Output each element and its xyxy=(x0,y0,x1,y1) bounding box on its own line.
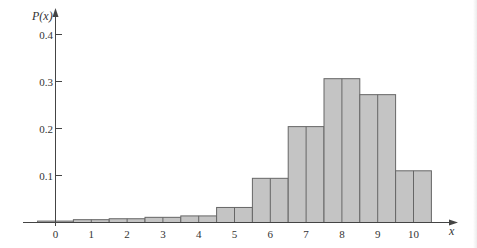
y-tick-label: 0.3 xyxy=(39,76,53,88)
y-tick-label: 0.1 xyxy=(39,170,53,182)
x-tick-label: 1 xyxy=(89,228,95,240)
histogram-bar xyxy=(396,171,432,223)
histogram-bar xyxy=(181,216,217,223)
x-tick-label: 6 xyxy=(268,228,274,240)
histogram-bar xyxy=(145,217,181,222)
probability-histogram: 0.10.20.30.4 012345678910 P(x) x xyxy=(0,0,477,248)
histogram-bar xyxy=(252,178,288,222)
y-tick-label: 0.2 xyxy=(39,123,53,135)
x-tick-label: 4 xyxy=(196,228,202,240)
x-tick-label: 0 xyxy=(53,228,59,240)
y-axis-label: P(x) xyxy=(31,9,53,23)
y-ticks: 0.10.20.30.4 xyxy=(39,29,62,182)
histogram-bars xyxy=(38,79,432,223)
x-tick-label: 2 xyxy=(124,228,130,240)
x-tick-labels: 012345678910 xyxy=(53,228,420,240)
x-tick-label: 5 xyxy=(232,228,238,240)
histogram-bar xyxy=(288,127,324,223)
x-tick-label: 10 xyxy=(408,228,420,240)
x-tick-label: 7 xyxy=(303,228,309,240)
x-tick-label: 8 xyxy=(339,228,345,240)
histogram-bar xyxy=(360,95,396,223)
x-tick-label: 9 xyxy=(375,228,381,240)
y-axis-arrow-icon xyxy=(53,8,59,17)
histogram-bar xyxy=(109,219,145,223)
x-tick-label: 3 xyxy=(160,228,166,240)
scan-edge-shadow xyxy=(473,0,477,248)
histogram-bar xyxy=(324,79,360,223)
y-tick-label: 0.4 xyxy=(39,29,53,41)
x-axis-label: x xyxy=(448,224,455,238)
histogram-bar xyxy=(217,207,253,222)
